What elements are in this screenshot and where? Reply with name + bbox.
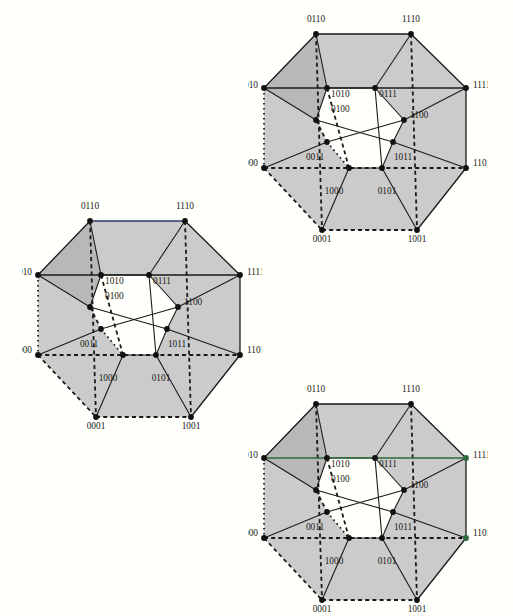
vertex-label-1100: 1100	[184, 297, 203, 307]
vertex-1100[interactable]	[401, 117, 407, 123]
tesseract-top-right: 0110111000101111101001110100110000111011…	[248, 8, 488, 253]
vertex-1010[interactable]	[98, 272, 104, 278]
vertex-1110[interactable]	[408, 31, 414, 37]
vertex-0101[interactable]	[379, 535, 385, 541]
vertex-0101[interactable]	[379, 165, 385, 171]
figure-middle-left: 0110111000101111101001110100110000111011…	[22, 195, 262, 440]
vertex-0111[interactable]	[372, 85, 378, 91]
vertex-0100[interactable]	[313, 487, 319, 493]
vertex-label-0101: 0101	[378, 556, 397, 566]
vertex-label-0011: 0011	[306, 152, 325, 162]
vertex-label-1101: 1101	[473, 158, 488, 168]
vertex-label-0010: 0010	[248, 80, 258, 90]
vertex-label-0000: 0000	[248, 158, 258, 168]
vertex-1010[interactable]	[324, 85, 330, 91]
vertex-label-1000: 1000	[99, 373, 118, 383]
vertex-label-0011: 0011	[306, 522, 325, 532]
vertex-1001[interactable]	[414, 227, 420, 233]
tesseract-middle-left: 0110111000101111101001110100110000111011…	[22, 195, 262, 440]
figure-bottom-right: 0110111000101111101001110100110000111011…	[248, 378, 488, 616]
vertex-label-0001: 0001	[87, 421, 106, 431]
vertex-1011[interactable]	[164, 326, 170, 332]
vertex-label-0111: 0111	[379, 459, 397, 469]
vertex-1101[interactable]	[463, 535, 469, 541]
vertex-label-1001: 1001	[408, 604, 427, 614]
vertex-1110[interactable]	[182, 218, 188, 224]
vertex-1001[interactable]	[188, 414, 194, 420]
vertex-label-0100: 0100	[331, 104, 350, 114]
vertex-1111[interactable]	[237, 272, 243, 278]
vertex-label-0000: 0000	[248, 528, 258, 538]
vertex-label-1101: 1101	[473, 528, 488, 538]
vertex-label-1100: 1100	[410, 110, 429, 120]
vertex-1010[interactable]	[324, 455, 330, 461]
vertex-0001[interactable]	[319, 597, 325, 603]
vertex-label-0010: 0010	[22, 267, 32, 277]
vertex-label-1111: 1111	[473, 450, 488, 460]
vertex-1111[interactable]	[463, 85, 469, 91]
vertex-1100[interactable]	[401, 487, 407, 493]
vertex-label-1011: 1011	[394, 152, 413, 162]
vertex-1011[interactable]	[390, 509, 396, 515]
figure-top-right: 0110111000101111101001110100110000111011…	[248, 8, 488, 253]
vertex-1000[interactable]	[346, 535, 352, 541]
vertex-label-1110: 1110	[176, 201, 194, 211]
vertex-0111[interactable]	[372, 455, 378, 461]
vertex-label-0010: 0010	[248, 450, 258, 460]
vertex-1000[interactable]	[346, 165, 352, 171]
vertex-0101[interactable]	[153, 352, 159, 358]
vertex-label-1010: 1010	[331, 89, 350, 99]
vertex-0010[interactable]	[35, 272, 41, 278]
vertex-0111[interactable]	[146, 272, 152, 278]
vertex-label-0000: 0000	[22, 345, 32, 355]
vertex-1110[interactable]	[408, 401, 414, 407]
vertex-label-0101: 0101	[152, 373, 171, 383]
vertex-label-1110: 1110	[402, 14, 420, 24]
cube-edge	[316, 490, 393, 512]
vertex-1100[interactable]	[175, 304, 181, 310]
vertex-0010[interactable]	[261, 455, 267, 461]
vertex-0110[interactable]	[87, 218, 93, 224]
vertex-label-0100: 0100	[331, 474, 350, 484]
vertex-label-0110: 0110	[307, 384, 326, 394]
vertex-label-0001: 0001	[313, 234, 332, 244]
vertex-1101[interactable]	[463, 165, 469, 171]
vertex-label-1010: 1010	[105, 276, 124, 286]
vertex-label-0001: 0001	[313, 604, 332, 614]
vertex-0001[interactable]	[93, 414, 99, 420]
vertex-0100[interactable]	[313, 117, 319, 123]
vertex-label-1111: 1111	[247, 267, 262, 277]
vertex-0010[interactable]	[261, 85, 267, 91]
vertex-0011[interactable]	[324, 139, 330, 145]
vertex-0011[interactable]	[98, 326, 104, 332]
vertex-label-0011: 0011	[80, 339, 99, 349]
tesseract-bottom-right: 0110111000101111101001110100110000111011…	[248, 378, 488, 616]
vertex-1001[interactable]	[414, 597, 420, 603]
vertex-0000[interactable]	[261, 165, 267, 171]
vertex-label-0110: 0110	[81, 201, 100, 211]
vertex-1101[interactable]	[237, 352, 243, 358]
vertex-label-0101: 0101	[378, 186, 397, 196]
vertex-1111[interactable]	[463, 455, 469, 461]
vertex-0110[interactable]	[313, 401, 319, 407]
vertex-label-1100: 1100	[410, 480, 429, 490]
vertex-0001[interactable]	[319, 227, 325, 233]
cube-edge	[316, 120, 393, 142]
vertex-label-1000: 1000	[325, 186, 344, 196]
vertex-0110[interactable]	[313, 31, 319, 37]
vertex-label-1010: 1010	[331, 459, 350, 469]
vertex-label-1110: 1110	[402, 384, 420, 394]
vertex-0100[interactable]	[87, 304, 93, 310]
vertex-0011[interactable]	[324, 509, 330, 515]
vertex-label-1101: 1101	[247, 345, 262, 355]
cube-edge	[90, 307, 167, 329]
vertex-label-1011: 1011	[394, 522, 413, 532]
vertex-0000[interactable]	[35, 352, 41, 358]
vertex-label-1001: 1001	[408, 234, 427, 244]
vertex-1000[interactable]	[120, 352, 126, 358]
vertex-label-0111: 0111	[379, 89, 397, 99]
vertex-1011[interactable]	[390, 139, 396, 145]
vertex-label-0110: 0110	[307, 14, 326, 24]
vertex-0000[interactable]	[261, 535, 267, 541]
